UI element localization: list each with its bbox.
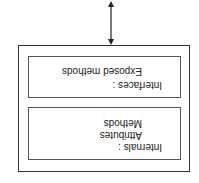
internals-title: Internals : — [118, 141, 162, 153]
interfaces-panel: Interfaces : Exposed methods — [28, 56, 181, 98]
interfaces-item-exposed-methods: Exposed methods — [62, 65, 142, 77]
bidirectional-arrow-icon — [105, 1, 117, 45]
internals-item-attributes: Attributes — [100, 129, 142, 141]
internals-panel: Internals : Attributes Methods — [28, 107, 181, 160]
internals-item-methods: Methods — [104, 117, 142, 129]
interfaces-title: Interfaces : — [113, 79, 162, 91]
diagram-stage: Internals : Attributes Methods Interface… — [0, 0, 199, 183]
